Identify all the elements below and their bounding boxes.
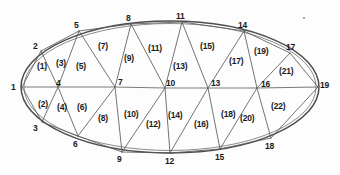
triangle-label-8: (8) (98, 114, 108, 123)
node-label-17: 17 (286, 43, 295, 52)
mesh-edge-7-9 (115, 87, 122, 152)
triangle-label-12: (12) (146, 120, 160, 129)
triangle-label-9: (9) (124, 54, 134, 63)
triangle-label-7: (7) (98, 42, 108, 51)
mesh-edge-7-10 (115, 87, 165, 88)
mesh-edge-14-16 (244, 31, 257, 88)
scan-speck (303, 17, 305, 19)
node-label-15: 15 (215, 153, 224, 162)
node-label-8: 8 (126, 14, 131, 23)
mesh-edge-8-10 (131, 24, 165, 88)
triangle-label-20: (20) (240, 114, 254, 123)
mesh-edge-10-12 (165, 88, 170, 153)
triangle-label-5: (5) (76, 62, 86, 71)
mesh-edge-2-5 (41, 31, 79, 51)
triangle-label-2: (2) (38, 100, 48, 109)
node-label-2: 2 (33, 42, 38, 51)
triangle-label-22: (22) (271, 102, 285, 111)
triangle-label-16: (16) (194, 120, 208, 129)
node-label-18: 18 (265, 142, 274, 151)
mesh-edge-15-18 (220, 138, 271, 149)
triangle-label-17: (17) (229, 57, 243, 66)
node-label-9: 9 (117, 155, 122, 164)
triangle-label-19: (19) (254, 47, 268, 56)
triangle-label-18: (18) (221, 110, 235, 119)
mesh-edge-13-15 (208, 88, 220, 149)
node-label-7: 7 (118, 78, 123, 87)
node-label-4: 4 (56, 79, 61, 88)
node-label-12: 12 (165, 157, 174, 166)
node-label-16: 16 (261, 80, 270, 89)
mesh-edge-3-6 (42, 122, 78, 136)
triangle-label-4: (4) (57, 103, 67, 112)
mesh-edge-9-12 (122, 152, 170, 153)
mesh-edge-16-18 (257, 88, 271, 138)
mesh-edge-5-7 (79, 31, 115, 87)
triangle-label-14: (14) (168, 111, 182, 120)
node-label-6: 6 (73, 140, 78, 149)
node-label-3: 3 (33, 124, 38, 133)
mesh-edge-11-13 (182, 22, 208, 88)
node-label-11: 11 (176, 12, 185, 21)
triangle-label-10: (10) (124, 110, 138, 119)
node-label-19: 19 (320, 81, 329, 90)
triangle-label-6: (6) (77, 103, 87, 112)
triangle-label-13: (13) (173, 62, 187, 71)
figure-canvas: 12345678910111213141516171819 (1)(2)(3)(… (0, 0, 340, 175)
node-label-14: 14 (238, 21, 247, 30)
node-label-10: 10 (166, 79, 175, 88)
node-label-13: 13 (211, 79, 220, 88)
mesh-edge-18-19 (271, 87, 318, 138)
triangle-label-3: (3) (56, 59, 66, 68)
triangle-label-11: (11) (148, 44, 162, 53)
node-label-1: 1 (11, 83, 16, 92)
mesh-edge-6-9 (78, 136, 122, 152)
triangle-label-1: (1) (37, 62, 47, 71)
triangle-label-15: (15) (200, 42, 214, 51)
triangle-label-21: (21) (279, 67, 293, 76)
node-label-5: 5 (74, 21, 79, 30)
